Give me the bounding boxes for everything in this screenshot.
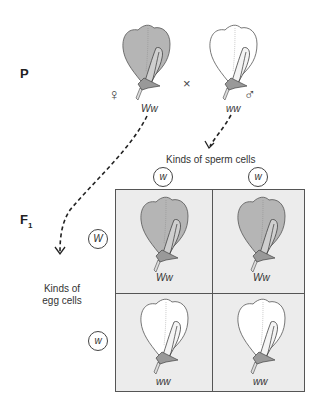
cell-genotype: Ww [156, 272, 173, 283]
sperm-gamete-2: w [248, 167, 268, 187]
egg-label-line-2: egg cells [40, 295, 84, 307]
sperm-cells-label: Kinds of sperm cells [166, 154, 255, 165]
sperm-gamete-1: w [153, 167, 173, 187]
cell-genotype: Ww [253, 272, 270, 283]
egg-label-line-1: Kinds of [40, 283, 84, 295]
white-flower-icon [233, 296, 291, 378]
cell-genotype: ww [253, 376, 267, 387]
egg-gamete-2: w [88, 331, 108, 351]
sperm-dashed-arrow-icon [210, 115, 231, 146]
punnett-cell-ww-dominant-1: Ww [116, 190, 211, 292]
punnett-cell-ww-dominant-2: Ww [213, 190, 308, 292]
egg-cells-label: Kinds of egg cells [40, 283, 84, 307]
purple-flower-icon [136, 194, 194, 276]
purple-flower-icon [233, 194, 291, 276]
punnett-square: Ww Ww ww ww [115, 189, 305, 392]
punnett-cell-ww-recessive-1: ww [116, 294, 211, 396]
white-flower-icon [136, 296, 194, 378]
egg-gamete-1: W [88, 229, 108, 249]
punnett-cell-ww-recessive-2: ww [213, 294, 308, 396]
cell-genotype: ww [156, 376, 170, 387]
sperm-arrow-head-icon [205, 141, 214, 148]
